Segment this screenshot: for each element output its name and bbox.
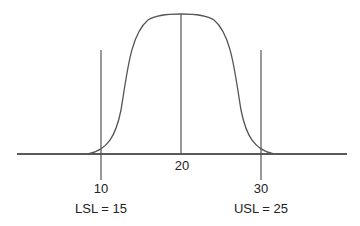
distribution-diagram — [0, 0, 360, 226]
tick-label-10: 10 — [94, 181, 108, 196]
tick-label-20: 20 — [175, 158, 189, 173]
usl-label: USL = 25 — [234, 201, 288, 216]
tick-label-30: 30 — [254, 181, 268, 196]
lsl-label: LSL = 15 — [75, 201, 127, 216]
